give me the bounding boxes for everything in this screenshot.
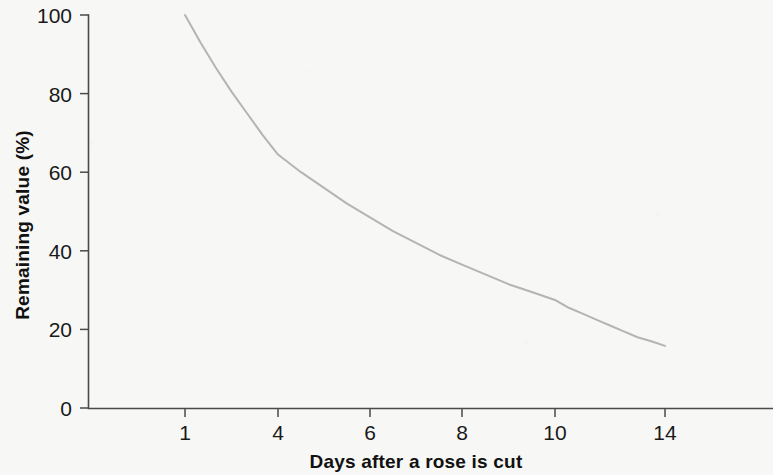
x-tick-label-8: 8 — [456, 421, 468, 444]
y-axis-ticks — [80, 15, 89, 408]
y-tick-label-80: 80 — [49, 83, 72, 106]
x-tick-label-10: 10 — [543, 421, 566, 444]
x-tick-label-14: 14 — [653, 421, 677, 444]
x-tick-label-4: 4 — [272, 421, 284, 444]
y-tick-label-20: 20 — [49, 318, 72, 341]
axes-group — [89, 15, 773, 409]
y-axis-tick-labels: 100 80 60 40 20 0 — [37, 4, 72, 420]
figure: 100 80 60 40 20 0 1 4 6 8 — [0, 0, 773, 475]
x-axis-ticks — [185, 409, 665, 418]
x-axis-tick-labels: 1 4 6 8 10 14 — [179, 421, 677, 444]
axis-lines — [89, 15, 773, 409]
y-tick-label-100: 100 — [37, 4, 72, 27]
y-tick-label-0: 0 — [60, 397, 72, 420]
y-tick-label-40: 40 — [49, 240, 72, 263]
data-series-remaining-value — [185, 15, 665, 346]
x-tick-label-1: 1 — [179, 421, 191, 444]
chart-container: 100 80 60 40 20 0 1 4 6 8 — [0, 0, 773, 475]
y-axis-title: Remaining value (%) — [12, 130, 33, 320]
x-tick-label-6: 6 — [364, 421, 376, 444]
chart-svg: 100 80 60 40 20 0 1 4 6 8 — [0, 0, 773, 475]
x-axis-title: Days after a rose is cut — [310, 451, 523, 472]
y-tick-label-60: 60 — [49, 161, 72, 184]
